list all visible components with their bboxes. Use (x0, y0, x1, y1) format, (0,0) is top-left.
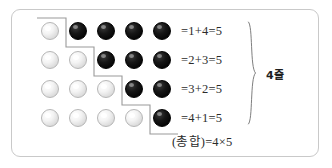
stone-black-r2-c3 (97, 51, 115, 69)
stone-black-r1-c4 (125, 22, 143, 40)
stone-white-r1-c1 (41, 22, 59, 40)
stone-white-r2-c1 (41, 51, 59, 69)
row-equation-3: =3+2=5 (181, 83, 222, 96)
stone-black-r3-c4 (125, 80, 143, 98)
figure-canvas: =1+4=5 =2+3=5 =3+2=5 =4+1=5 4줄 (총합)=4×5 (0, 0, 332, 168)
stone-white-r3-c2 (69, 80, 87, 98)
stone-white-r3-c1 (41, 80, 59, 98)
stone-white-r4-c1 (41, 109, 59, 127)
brace-label-rows: 4줄 (266, 66, 284, 82)
row-equation-1: =1+4=5 (181, 25, 222, 38)
stone-white-r4-c3 (97, 109, 115, 127)
stone-black-r2-c5 (153, 51, 171, 69)
stone-black-r4-c5 (153, 109, 171, 127)
row-equation-4: =4+1=5 (181, 112, 222, 125)
stone-black-r1-c3 (97, 22, 115, 40)
stone-grid (0, 0, 332, 168)
total-expression: (총합)=4×5 (172, 136, 233, 149)
stone-white-r4-c4 (125, 109, 143, 127)
stone-black-r2-c4 (125, 51, 143, 69)
stone-black-r3-c5 (153, 80, 171, 98)
stone-white-r3-c3 (97, 80, 115, 98)
stone-white-r4-c2 (69, 109, 87, 127)
row-equation-2: =2+3=5 (181, 54, 222, 67)
stone-black-r1-c5 (153, 22, 171, 40)
stone-white-r2-c2 (69, 51, 87, 69)
stone-black-r1-c2 (69, 22, 87, 40)
